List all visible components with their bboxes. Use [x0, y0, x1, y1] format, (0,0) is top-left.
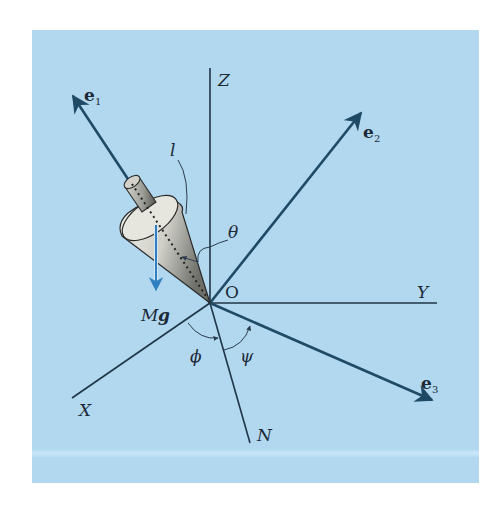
psi-label: ψ — [240, 346, 254, 366]
svg-text:g: g — [158, 305, 170, 325]
e1-label: e 1 — [84, 85, 101, 107]
euler-angle-diagram: Z Y X N O e 1 e 2 e 3 θ ϕ ψ l M g — [0, 0, 503, 517]
x-axis-label: X — [77, 400, 92, 420]
svg-text:e: e — [421, 373, 432, 393]
phi-label: ϕ — [190, 346, 202, 366]
length-label: l — [170, 140, 175, 160]
svg-text:2: 2 — [374, 133, 380, 144]
y-axis-label: Y — [417, 282, 430, 302]
n-line-of-nodes — [210, 303, 250, 443]
svg-text:e: e — [84, 85, 95, 105]
e2-label: e 2 — [363, 122, 380, 144]
theta-label: θ — [228, 222, 238, 242]
svg-text:M: M — [140, 305, 159, 325]
spinning-top — [115, 160, 210, 303]
e3-label: e 3 — [421, 373, 438, 395]
svg-text:3: 3 — [432, 384, 438, 395]
phi-arc — [188, 323, 218, 338]
svg-text:1: 1 — [95, 96, 101, 107]
origin-label: O — [225, 282, 239, 302]
n-axis-label: N — [256, 425, 273, 445]
svg-text:e: e — [363, 122, 374, 142]
z-axis-label: Z — [217, 70, 231, 90]
e2-vector — [210, 113, 361, 303]
gravity-label: M g — [140, 305, 170, 325]
